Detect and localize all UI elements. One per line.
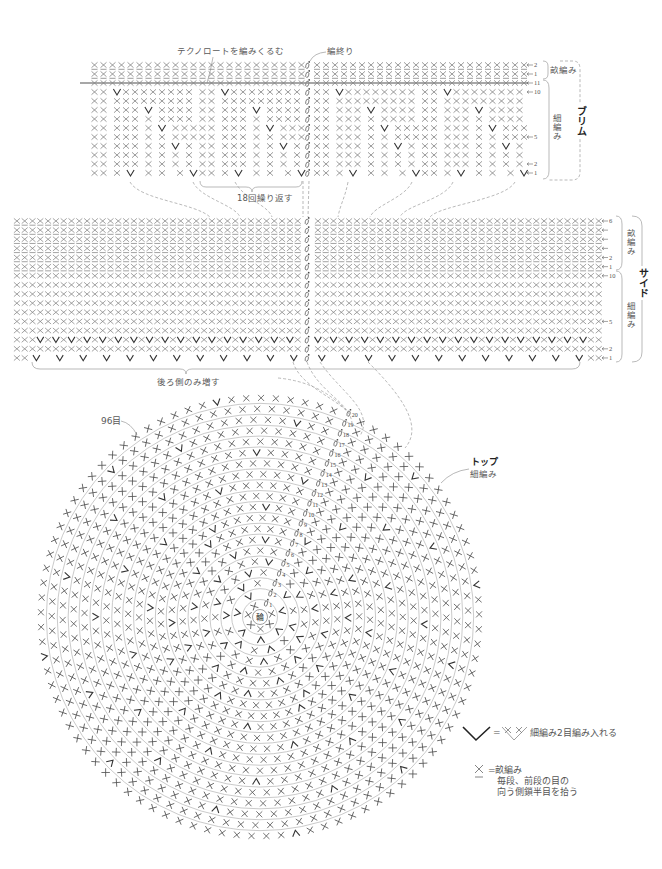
back-loop-symbol <box>76 237 82 244</box>
back-loop-symbol <box>115 246 121 253</box>
single-crochet-symbol <box>222 107 228 112</box>
single-crochet-symbol <box>517 116 523 121</box>
single-crochet-symbol <box>463 282 469 287</box>
back-loop-symbol <box>424 218 430 225</box>
single-crochet-symbol <box>463 328 469 333</box>
turning-chain-symbol <box>305 133 310 141</box>
single-crochet-symbol <box>356 455 364 463</box>
single-crochet-symbol <box>118 648 125 655</box>
single-crochet-symbol <box>422 507 430 515</box>
increase-symbol <box>127 355 134 361</box>
single-crochet-symbol <box>243 439 249 445</box>
single-crochet-symbol <box>295 291 301 296</box>
single-crochet-symbol <box>92 282 98 287</box>
back-loop-symbol <box>147 237 153 244</box>
single-crochet-symbol <box>425 474 433 482</box>
single-crochet-symbol <box>123 301 129 306</box>
single-crochet-symbol <box>326 417 334 425</box>
single-crochet-symbol <box>387 712 395 720</box>
single-crochet-symbol <box>222 125 228 130</box>
legend-back-loop-note-1: 毎段、前段の目の <box>497 777 569 786</box>
single-crochet-symbol <box>81 610 87 616</box>
single-crochet-symbol <box>409 528 417 536</box>
single-crochet-symbol <box>260 471 266 477</box>
back-loop-symbol <box>463 237 469 244</box>
single-crochet-symbol <box>357 742 365 750</box>
brim-row: 5 <box>92 133 538 141</box>
single-crochet-symbol <box>129 717 137 725</box>
single-crochet-symbol <box>115 291 121 296</box>
back-loop-symbol <box>368 71 374 78</box>
single-crochet-symbol <box>367 702 375 710</box>
increase-symbol <box>292 654 301 663</box>
single-crochet-symbol <box>92 301 98 306</box>
single-crochet-symbol <box>541 346 547 351</box>
single-crochet-symbol <box>526 319 532 324</box>
single-crochet-symbol <box>323 301 329 306</box>
increase-symbol <box>221 89 228 95</box>
single-crochet-symbol <box>346 475 354 483</box>
back-loop-symbol <box>332 71 338 78</box>
single-crochet-symbol <box>248 310 254 315</box>
back-loop-symbol <box>377 71 383 78</box>
single-crochet-symbol <box>346 310 352 315</box>
single-crochet-symbol <box>487 319 493 324</box>
back-loop-symbol <box>448 246 454 253</box>
single-crochet-symbol <box>588 282 594 287</box>
single-crochet-symbol <box>331 310 337 315</box>
single-crochet-symbol <box>276 107 282 112</box>
single-crochet-symbol <box>363 670 371 678</box>
single-crochet-symbol <box>314 161 320 166</box>
single-crochet-symbol <box>409 89 415 94</box>
single-crochet-symbol <box>454 161 460 166</box>
back-loop-symbol <box>338 218 344 225</box>
single-crochet-symbol <box>327 543 335 551</box>
single-crochet-symbol <box>572 291 578 296</box>
increase-symbol <box>552 355 559 361</box>
single-crochet-symbol <box>271 273 277 278</box>
row-number: 10 <box>534 88 541 95</box>
single-crochet-symbol <box>377 346 383 351</box>
single-crochet-symbol <box>354 337 360 342</box>
back-loop-symbol <box>217 264 223 271</box>
turning-chain-symbol <box>305 308 310 316</box>
single-crochet-symbol <box>115 328 121 333</box>
single-crochet-symbol <box>355 152 361 157</box>
single-crochet-symbol <box>295 310 301 315</box>
single-crochet-symbol <box>315 273 321 278</box>
single-crochet-symbol <box>111 562 119 570</box>
single-crochet-symbol <box>374 797 382 805</box>
single-crochet-symbol <box>328 696 336 704</box>
single-crochet-symbol <box>517 161 523 166</box>
single-crochet-symbol <box>596 282 602 287</box>
round-number: 13 <box>321 482 327 488</box>
single-crochet-symbol <box>147 618 153 624</box>
single-crochet-symbol <box>331 301 337 306</box>
single-crochet-symbol <box>301 606 308 613</box>
single-crochet-symbol <box>249 98 255 103</box>
single-crochet-symbol <box>526 273 532 278</box>
single-crochet-symbol <box>502 319 508 324</box>
single-crochet-symbol <box>398 671 406 679</box>
increase-symbol <box>457 170 464 176</box>
single-crochet-symbol <box>138 728 146 736</box>
single-crochet-symbol <box>431 107 437 112</box>
single-crochet-symbol <box>494 291 500 296</box>
back-loop-symbol <box>448 237 454 244</box>
back-loop-symbol <box>485 62 491 69</box>
single-crochet-symbol <box>337 805 345 813</box>
single-crochet-symbol <box>86 713 94 721</box>
single-crochet-symbol <box>108 451 116 459</box>
back-loop-symbol <box>346 246 352 253</box>
single-crochet-symbol <box>317 717 325 725</box>
single-crochet-symbol <box>290 569 298 577</box>
increase-symbol <box>282 591 291 600</box>
single-crochet-symbol <box>164 707 172 715</box>
technoroto-note: テクノロートを編みくるむ <box>177 47 284 56</box>
single-crochet-symbol <box>39 638 46 645</box>
increase-symbol <box>167 656 176 665</box>
single-crochet-symbol <box>215 761 222 768</box>
single-crochet-symbol <box>177 107 183 112</box>
single-crochet-symbol <box>232 282 238 287</box>
single-crochet-symbol <box>370 346 376 351</box>
